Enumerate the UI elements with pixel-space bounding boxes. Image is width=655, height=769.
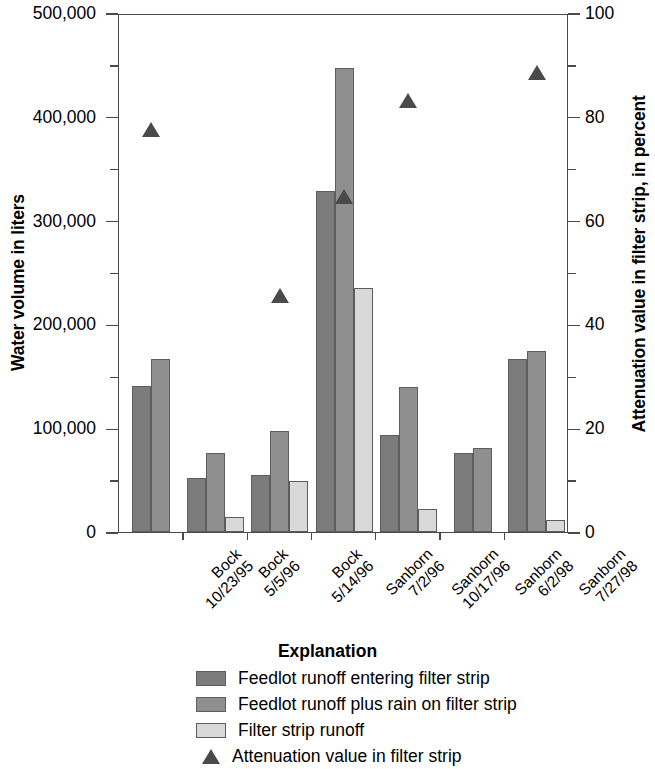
legend-item-label: Feedlot runoff plus rain on filter strip [238,694,517,715]
x-axis-tick [182,533,183,540]
axis-tick [106,429,118,430]
bar [132,386,151,532]
x-axis-category-label: Sanborn10/17/96 [447,545,514,612]
axis-tick [568,325,580,326]
axis-tick [568,221,580,222]
axis-tick [106,117,118,118]
legend: Explanation Feedlot runoff entering filt… [0,641,655,769]
y-tick-label-right: 80 [585,107,604,128]
axis-tick [110,169,118,170]
attenuation-marker [335,189,353,204]
axis-tick [110,273,118,274]
axis-tick [568,429,580,430]
x-axis-category-label: Sanborn6/2/98 [511,545,577,611]
x-axis-category-label: Bock10/23/95 [190,545,257,612]
attenuation-marker [142,122,160,137]
y-axis-right-title: Attenuation value in filter strip, in pe… [629,133,650,433]
axis-tick [568,532,580,533]
bar [206,453,225,532]
legend-title: Explanation [0,641,655,662]
axis-tick [568,13,580,14]
x-axis-tick [439,533,440,540]
x-axis-tick [311,533,312,540]
legend-triangle-icon [202,749,220,764]
x-axis-category-label: Bock5/5/96 [249,545,304,600]
legend-item: Feedlot runoff entering filter strip [0,665,655,691]
axis-tick [106,325,118,326]
y-axis-left-title: Water volume in liters [8,133,29,433]
legend-swatch-icon [196,723,226,738]
x-axis-category-label: Sanborn7/27/98 [575,545,641,611]
axis-tick [568,169,576,170]
attenuation-marker [271,288,289,303]
bar [508,359,527,532]
axis-tick [106,13,118,14]
legend-item: Filter strip runoff [0,717,655,743]
attenuation-marker [528,65,546,80]
attenuation-marker [399,93,417,108]
bar [151,359,170,532]
y-tick-label-right: 100 [585,3,614,24]
axis-tick [110,480,118,481]
bar [251,475,270,532]
y-tick-label-right: 60 [585,211,604,232]
bar [187,478,206,532]
y-tick-label-right: 0 [585,522,595,543]
y-tick-label-left: 0 [86,522,96,543]
y-tick-label-left: 300,000 [33,211,96,232]
y-tick-label-left: 500,000 [33,3,96,24]
legend-item-label: Attenuation value in filter strip [232,746,462,767]
legend-item: Attenuation value in filter strip [0,743,655,769]
axis-tick [110,377,118,378]
bar [546,520,565,532]
axis-tick [568,65,576,66]
axis-tick [568,273,576,274]
x-axis-category-label: Bock5/14/96 [316,545,377,606]
legend-swatch-icon [196,671,226,686]
legend-item: Feedlot runoff plus rain on filter strip [0,691,655,717]
axis-tick [568,480,576,481]
axis-tick [568,377,576,378]
x-axis-tick [375,533,376,540]
x-axis-category-label: Sanborn7/2/96 [382,545,448,611]
bar [454,453,473,532]
bar [335,68,354,532]
y-tick-label-right: 40 [585,314,604,335]
axis-tick [106,221,118,222]
axis-tick [110,65,118,66]
axis-tick [568,117,580,118]
bar [225,517,244,532]
x-axis-tick [247,533,248,540]
y-tick-label-left: 100,000 [33,418,96,439]
bar [380,435,399,532]
axis-tick [106,532,118,533]
x-axis-tick [504,533,505,540]
bar [418,509,437,532]
bar [354,288,373,532]
y-tick-label-right: 20 [585,418,604,439]
bar [289,481,308,532]
legend-rows: Feedlot runoff entering filter stripFeed… [0,665,655,769]
legend-item-label: Feedlot runoff entering filter strip [238,668,490,689]
bar [473,448,492,532]
bar [270,431,289,532]
legend-swatch-icon [196,697,226,712]
plot-area [118,14,568,533]
legend-item-label: Filter strip runoff [238,720,364,741]
bar [399,387,418,532]
bar [527,351,546,532]
bar [316,191,335,533]
y-tick-label-left: 400,000 [33,107,96,128]
y-tick-label-left: 200,000 [33,314,96,335]
